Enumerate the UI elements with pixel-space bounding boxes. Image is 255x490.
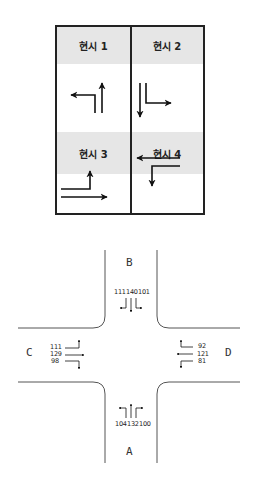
approach-d-right-volume: 92 bbox=[198, 342, 206, 350]
road-edge-se bbox=[157, 382, 240, 463]
approach-b-through-volume: 140 bbox=[126, 288, 138, 296]
approach-d-arrows bbox=[177, 340, 193, 368]
approach-b-label: B bbox=[126, 256, 133, 269]
road-edge-nw bbox=[18, 250, 105, 328]
approach-a-left-volume: 104 bbox=[115, 420, 127, 428]
intersection-diagram bbox=[0, 0, 255, 490]
road-edge-sw bbox=[18, 382, 105, 463]
approach-d-left-volume: 81 bbox=[198, 357, 206, 365]
road-edge-ne bbox=[157, 250, 240, 328]
approach-a-label: A bbox=[126, 445, 133, 458]
approach-c-label: C bbox=[26, 346, 33, 359]
approach-c-right-volume: 98 bbox=[51, 357, 59, 365]
approach-c-arrows bbox=[65, 340, 84, 369]
approach-a-right-volume: 100 bbox=[139, 420, 151, 428]
approach-a-arrows bbox=[119, 404, 143, 418]
approach-b-arrows bbox=[120, 298, 142, 312]
approach-b-left-volume: 101 bbox=[138, 288, 150, 296]
approach-b-right-volume: 111 bbox=[114, 288, 126, 296]
approach-d-label: D bbox=[225, 346, 232, 359]
approach-a-through-volume: 132 bbox=[127, 420, 139, 428]
